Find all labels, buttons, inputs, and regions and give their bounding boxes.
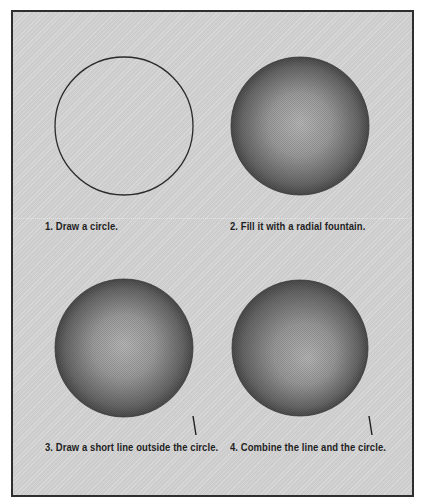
step-3-graphic [55,279,196,435]
figure-artwork [0,0,424,504]
step-4-graphic [232,280,372,435]
halftone-texture [232,280,368,416]
step-2-graphic [231,57,369,195]
short-line [193,416,196,435]
step-3-caption: 3. Draw a short line outside the circle. [45,441,218,453]
halftone-texture [55,279,193,417]
step-1-caption: 1. Draw a circle. [45,220,118,232]
outline-circle [55,57,193,195]
step-1-graphic [55,57,193,195]
step-2-caption: 2. Fill it with a radial fountain. [230,220,365,232]
halftone-texture [231,57,369,195]
combined-line [369,416,372,435]
step-4-caption: 4. Combine the line and the circle. [230,441,386,453]
